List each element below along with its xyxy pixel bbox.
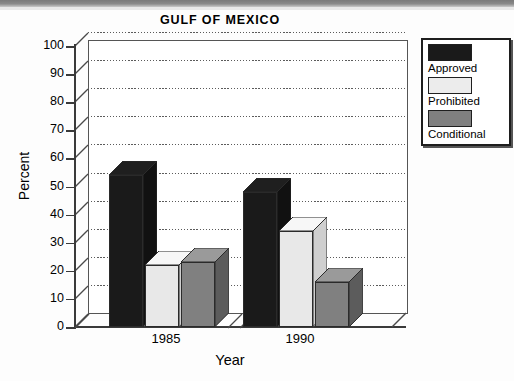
x-tick-label-1990: 1990 — [265, 331, 335, 346]
y-tick-label-20: 20 — [30, 264, 64, 276]
y-tick-depth-60 — [74, 144, 90, 159]
x-axis-title: Year — [150, 352, 310, 368]
y-tick-label-70: 70 — [30, 123, 64, 135]
bar-front-face — [315, 282, 349, 327]
y-tick-depth-20 — [74, 257, 90, 272]
y-axis-title: Percent — [16, 136, 32, 216]
bar-top-face — [315, 268, 363, 284]
y-tick-depth-40 — [74, 201, 90, 216]
y-tick-depth-70 — [74, 116, 90, 131]
y-tick-label-30: 30 — [30, 236, 64, 248]
bar-top-face — [109, 161, 157, 177]
y-tick-label-60: 60 — [30, 151, 64, 163]
y-tick-label-10: 10 — [30, 292, 64, 304]
bar-1985-prohibited — [145, 251, 179, 327]
y-axis-line — [74, 44, 76, 329]
bar-front-face — [243, 192, 277, 327]
gridline-70 — [88, 116, 406, 117]
bar-1985-approved — [109, 161, 143, 327]
bar-1985-conditional — [181, 248, 215, 327]
legend-label-prohibited: Prohibited — [428, 95, 504, 108]
bar-front-face — [181, 262, 215, 327]
bar-1990-prohibited — [279, 217, 313, 327]
gridline-100 — [88, 32, 406, 33]
y-tick-label-50: 50 — [30, 180, 64, 192]
bar-top-face — [243, 178, 291, 194]
legend-swatch-conditional — [428, 110, 472, 127]
y-tick-label-90: 90 — [30, 67, 64, 79]
legend: Approved Prohibited Conditional — [421, 38, 511, 146]
y-tick-depth-50 — [74, 173, 90, 188]
gridline-80 — [88, 88, 406, 89]
x-tick-label-1985: 1985 — [131, 331, 201, 346]
floor-right-edge — [391, 312, 407, 329]
legend-swatch-approved — [428, 44, 472, 61]
y-tick-depth-10 — [74, 285, 90, 300]
chart-page: GULF OF MEXICO 0102030405060708090100 Pe… — [0, 0, 514, 381]
bar-1990-approved — [243, 178, 277, 327]
y-tick-label-0: 0 — [30, 320, 64, 332]
bar-front-face — [145, 265, 179, 327]
y-tick-label-80: 80 — [30, 95, 64, 107]
gridline-60 — [88, 144, 406, 145]
bar-front-face — [109, 175, 143, 327]
gridline-90 — [88, 60, 406, 61]
bar-top-face — [181, 248, 229, 264]
y-tick-depth-100 — [74, 32, 90, 47]
legend-label-conditional: Conditional — [428, 128, 504, 141]
floor-left-edge — [74, 312, 89, 328]
y-tick-depth-90 — [74, 60, 90, 75]
legend-label-approved: Approved — [428, 62, 504, 75]
bar-front-face — [279, 231, 313, 327]
bar-1990-conditional — [315, 268, 349, 327]
legend-swatch-prohibited — [428, 77, 472, 94]
y-tick-depth-30 — [74, 229, 90, 244]
legend-entry-approved: Approved — [428, 44, 504, 75]
y-tick-label-40: 40 — [30, 208, 64, 220]
y-tick-depth-80 — [74, 88, 90, 103]
bar-top-face — [279, 217, 327, 233]
legend-entry-prohibited: Prohibited — [428, 77, 504, 108]
y-tick-label-100: 100 — [30, 39, 64, 51]
legend-entry-conditional: Conditional — [428, 110, 504, 141]
